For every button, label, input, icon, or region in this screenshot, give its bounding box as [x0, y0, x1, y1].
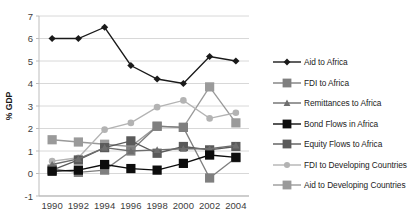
data-point-diamond [154, 75, 161, 82]
legend-marker-square [272, 178, 302, 192]
legend-item[interactable]: Equity Flows to Africa [272, 134, 419, 155]
y-tick-label: 6 [28, 33, 33, 44]
legend-marker-glyph [284, 59, 291, 66]
legend-item-label: FDI to Africa [302, 78, 349, 88]
y-tick-label: 1 [28, 146, 33, 157]
legend-item[interactable]: FDI to Africa [272, 73, 419, 94]
x-tick-label: 2004 [225, 200, 246, 211]
data-point-square [231, 153, 240, 162]
y-tick-label: 3 [28, 101, 33, 112]
x-tick-label: 2000 [173, 200, 194, 211]
legend-item-label: Remittances to Africa [302, 98, 381, 108]
line-chart-svg: -101234567199019921994199619982000200220… [0, 0, 260, 220]
data-point-square [179, 123, 188, 132]
y-tick-label: 5 [28, 56, 33, 67]
legend-marker-triangle [272, 96, 302, 110]
y-axis-title: % GDP [4, 91, 14, 120]
data-point-square [153, 122, 162, 131]
x-tick-label: 1998 [147, 200, 168, 211]
legend-marker-square [272, 137, 302, 151]
data-point-square [48, 135, 57, 144]
legend-item-label: Aid to Developing Countries [302, 180, 406, 190]
data-point-square [48, 167, 57, 176]
y-tick-label: 2 [28, 123, 33, 134]
data-point-square [205, 150, 214, 159]
legend-item[interactable]: Aid to Africa [272, 52, 419, 73]
legend-marker-circle [272, 158, 302, 172]
x-tick-label: 1992 [68, 200, 89, 211]
data-point-circle [154, 104, 161, 111]
data-point-square [74, 137, 83, 146]
data-point-diamond [75, 35, 82, 42]
legend-item[interactable]: Bond Flows in Africa [272, 114, 419, 135]
data-point-square [126, 136, 135, 145]
x-tick-label: 1996 [120, 200, 141, 211]
data-point-square [205, 173, 214, 182]
legend-marker-diamond [272, 55, 302, 69]
legend-item[interactable]: FDI to Developing Countries [272, 155, 419, 176]
x-tick-label: 1990 [42, 200, 63, 211]
legend-marker-square [272, 117, 302, 131]
legend-item-label: Aid to Africa [302, 57, 348, 67]
y-tick-label: 0 [28, 168, 33, 179]
data-point-square [205, 82, 214, 91]
data-point-square [153, 166, 162, 175]
data-point-square [100, 160, 109, 169]
y-tick-label: 4 [28, 78, 33, 89]
legend-item[interactable]: Remittances to Africa [272, 93, 419, 114]
series-aid-to-africa [49, 24, 240, 87]
data-point-square [126, 164, 135, 173]
legend-marker-glyph [284, 162, 290, 168]
y-tick-label: 7 [28, 11, 33, 22]
data-point-diamond [232, 57, 239, 64]
legend-marker-glyph [283, 119, 292, 128]
chart-legend: Aid to AfricaFDI to AfricaRemittances to… [272, 52, 419, 196]
legend-marker-glyph [283, 140, 292, 149]
legend-item[interactable]: Aid to Developing Countries [272, 175, 419, 196]
x-tick-label: 2002 [199, 200, 220, 211]
data-point-circle [233, 109, 240, 116]
data-point-square [231, 118, 240, 127]
y-tick-label: -1 [25, 191, 33, 202]
data-point-diamond [49, 35, 56, 42]
chart-figure: -101234567199019921994199619982000200220… [0, 0, 419, 220]
data-point-square [179, 159, 188, 168]
legend-item-label: Bond Flows in Africa [302, 119, 378, 129]
data-point-square [74, 166, 83, 175]
legend-marker-glyph [283, 181, 292, 190]
data-point-circle [180, 97, 187, 104]
data-point-circle [101, 126, 108, 133]
legend-item-label: Equity Flows to Africa [302, 139, 382, 149]
data-point-circle [128, 120, 135, 127]
legend-marker-square [272, 76, 302, 90]
legend-marker-glyph [283, 78, 292, 87]
legend-item-label: FDI to Developing Countries [302, 160, 407, 170]
data-point-circle [206, 115, 213, 122]
chart-plot-area: -101234567199019921994199619982000200220… [0, 0, 260, 220]
x-tick-label: 1994 [94, 200, 115, 211]
